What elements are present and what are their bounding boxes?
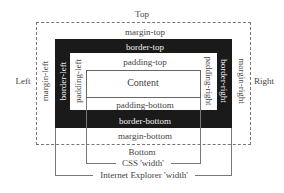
bottom-label: Bottom (122, 147, 162, 157)
ie-width-label: Internet Explorer 'width' (95, 170, 193, 180)
margin-left-label: margin-left (40, 46, 50, 116)
css-width-label: CSS 'width' (113, 158, 173, 168)
padding-left-label: padding-left (73, 46, 83, 116)
padding-top-label: padding-top (100, 57, 190, 67)
right-label: Right (252, 76, 276, 86)
border-top-label: border-top (100, 42, 190, 52)
css-width-right-line (200, 98, 201, 163)
border-left-label: border-left (58, 46, 68, 116)
margin-right-label: margin-right (237, 46, 247, 116)
content-label: Content (100, 78, 186, 88)
margin-top-label: margin-top (100, 27, 190, 37)
css-width-line-right (171, 163, 201, 164)
css-width-line-left (86, 163, 116, 164)
margin-bottom-label: margin-bottom (95, 131, 195, 141)
padding-right-label: padding-right (204, 46, 214, 116)
top-label: Top (122, 9, 162, 19)
border-bottom-label: border-bottom (95, 116, 195, 126)
ie-width-line-left (55, 175, 93, 176)
css-width-left-line (86, 98, 87, 163)
padding-bottom-label: padding-bottom (95, 100, 195, 110)
ie-width-line-right (195, 175, 232, 176)
ie-width-left-line (55, 128, 56, 175)
left-label: Left (12, 76, 34, 86)
ie-width-right-line (231, 128, 232, 175)
border-right-label: border-right (219, 46, 229, 116)
